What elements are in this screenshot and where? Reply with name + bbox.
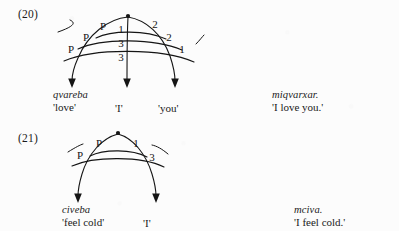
gloss-20-0: qvareba 'love'	[53, 89, 88, 113]
apex-node-21	[116, 131, 120, 135]
center-label-20-0: 1	[118, 23, 124, 35]
stratum-arc-3-20	[64, 51, 194, 62]
right-label-21-0: 1	[133, 137, 139, 149]
left-label-21-1: P	[77, 149, 83, 161]
arrowheads-20	[68, 79, 179, 89]
gloss-20-2: 'you'	[158, 102, 178, 114]
surface-form-20: miqvarxar.	[272, 89, 323, 101]
gloss-meaning-20-2: 'you'	[158, 102, 178, 114]
left-label-20-1: P	[83, 31, 89, 43]
right-label-20-1: 2	[166, 31, 172, 43]
arrowheads-21	[74, 194, 160, 204]
gloss-21-1: 'I'	[143, 217, 151, 229]
right-label-20-2: 1	[179, 43, 185, 55]
gloss-word-21-0: civeba	[62, 204, 104, 216]
right-label-20-0: 2	[152, 18, 158, 30]
arrowhead-right-21	[152, 194, 160, 204]
left-label-20-0: P	[100, 20, 106, 32]
gloss-meaning-20-1: 'I'	[115, 102, 123, 114]
arrowhead-center-20	[123, 79, 131, 89]
stratum-arc-1-21	[90, 151, 147, 157]
gloss-meaning-21-1: 'I'	[143, 217, 151, 229]
gloss-meaning-21-0: 'feel cold'	[62, 216, 104, 228]
free-translation-20: 'I love you.'	[272, 101, 323, 113]
translation-21: mciva. 'I feel cold.'	[294, 204, 345, 228]
left-label-20-2: P	[68, 43, 74, 55]
translation-20: miqvarxar. 'I love you.'	[272, 89, 323, 113]
stratum-arc-1-20	[96, 32, 166, 39]
arrowhead-right-20	[171, 79, 179, 89]
gloss-21-0: civeba 'feel cold'	[62, 204, 104, 228]
arrowhead-left-20	[68, 79, 76, 89]
gloss-meaning-20-0: 'love'	[53, 101, 88, 113]
gloss-word-20-0: qvareba	[53, 89, 88, 101]
apex-node-20	[126, 14, 130, 18]
example-20: (20)	[0, 0, 399, 118]
sweep-line-upper-left-20	[58, 20, 73, 32]
arrowhead-left-21	[74, 194, 82, 204]
example-21: (21) P	[0, 118, 399, 231]
center-label-20-2: 3	[118, 51, 124, 63]
arc-center-20	[127, 17, 128, 81]
right-label-21-1: 3	[149, 151, 155, 163]
center-label-20-1: 3	[118, 37, 124, 49]
surface-form-21: mciva.	[294, 204, 345, 216]
gloss-20-1: 'I'	[115, 102, 123, 114]
free-translation-21: 'I feel cold.'	[294, 216, 345, 228]
left-label-21-0: P	[96, 137, 102, 149]
sweep-line-upper-right-20	[196, 35, 204, 44]
scanned-page: (20)	[0, 0, 399, 231]
